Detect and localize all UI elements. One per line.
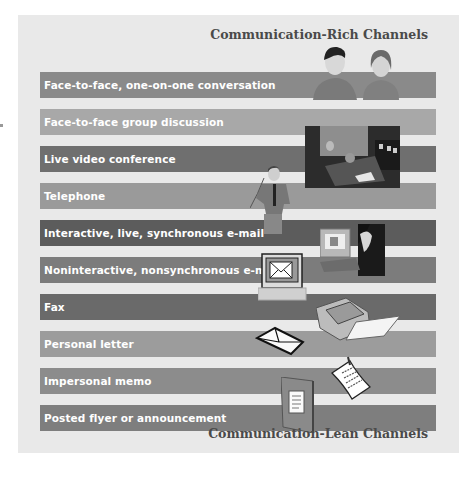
channel-label: Personal letter xyxy=(40,338,134,350)
channel-label: Impersonal memo xyxy=(40,375,152,387)
two-people-talking-icon xyxy=(305,42,405,100)
channel-label: Fax xyxy=(40,301,65,313)
edge-mark xyxy=(0,124,3,127)
channel-label: Noninteractive, nonsynchronous e-mail xyxy=(40,264,281,276)
channel-label: Posted flyer or announcement xyxy=(40,412,226,424)
rich-channels-heading: Communication-Rich Channels xyxy=(210,27,428,42)
person-at-computer-icon xyxy=(320,224,385,276)
video-conference-room-icon xyxy=(305,126,400,188)
folder-with-document-icon xyxy=(281,377,316,433)
lean-channels-heading: Communication-Lean Channels xyxy=(208,426,428,441)
channel-label: Interactive, live, synchronous e-mail xyxy=(40,227,264,239)
channel-bar-impersonal-memo: Impersonal memo xyxy=(40,368,436,394)
envelope-icon xyxy=(255,326,305,356)
man-on-telephone-icon xyxy=(250,164,300,234)
fax-machine-icon xyxy=(316,296,401,341)
channel-label: Face-to-face group discussion xyxy=(40,116,224,128)
channel-label: Telephone xyxy=(40,190,105,202)
pinned-memo-icon xyxy=(330,355,372,401)
channel-label: Face-to-face, one-on-one conversation xyxy=(40,79,276,91)
computer-with-envelope-icon xyxy=(258,253,308,301)
channel-label: Live video conference xyxy=(40,153,176,165)
